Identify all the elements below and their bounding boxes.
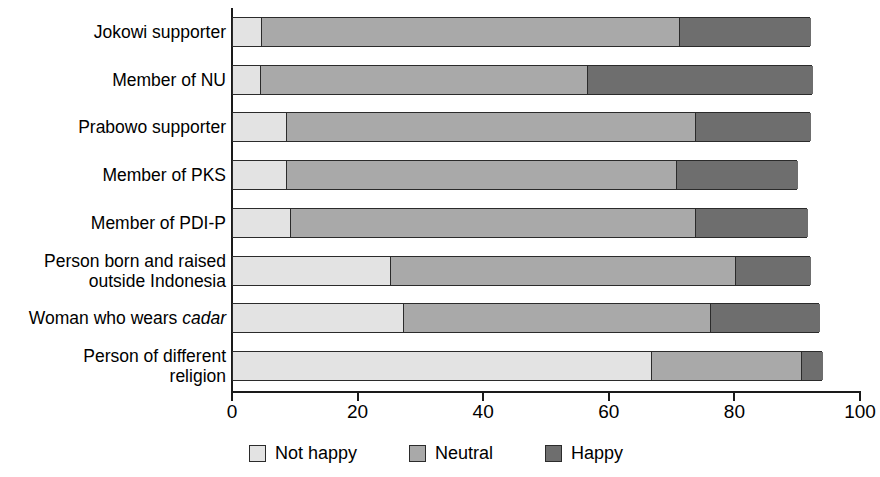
x-axis-tick-100: [859, 393, 861, 401]
x-axis-tick-40: [482, 393, 484, 401]
neutral-swatch-icon: [409, 445, 426, 462]
x-axis-tick-label-20: 20: [328, 401, 388, 423]
x-axis-tick-20: [357, 393, 359, 401]
bar-segment-neutral[interactable]: [651, 352, 802, 380]
category-label-2: Prabowo supporter: [0, 117, 226, 137]
category-label-7: Person of differentreligion: [0, 346, 226, 386]
legend-item-not-happy[interactable]: Not happy: [249, 443, 357, 463]
bar-segment-neutral[interactable]: [286, 161, 675, 189]
x-axis-tick-label-80: 80: [704, 401, 764, 423]
category-label-line: Jokowi supporter: [0, 22, 226, 42]
category-label-6: Woman who wears cadar: [0, 308, 226, 328]
bar-2[interactable]: [232, 112, 810, 142]
category-label-1: Member of NU: [0, 70, 226, 90]
bar-segment-happy[interactable]: [695, 209, 808, 237]
bar-segment-not-happy[interactable]: [233, 209, 290, 237]
bar-segment-neutral[interactable]: [390, 257, 735, 285]
category-label-4: Member of PDI-P: [0, 213, 226, 233]
bar-6[interactable]: [232, 303, 819, 333]
bar-segment-happy[interactable]: [679, 18, 811, 46]
bar-segment-neutral[interactable]: [403, 304, 711, 332]
x-axis-tick-label-100: 100: [830, 401, 880, 423]
bar-3[interactable]: [232, 160, 797, 190]
bar-segment-happy[interactable]: [695, 113, 811, 141]
bar-segment-neutral[interactable]: [290, 209, 695, 237]
bar-segment-happy[interactable]: [676, 161, 798, 189]
bar-segment-happy[interactable]: [710, 304, 820, 332]
happy-swatch-icon: [545, 445, 562, 462]
not-happy-swatch-icon: [249, 445, 266, 462]
chart-legend: Not happyNeutralHappy: [0, 443, 872, 463]
x-axis-tick-label-40: 40: [453, 401, 513, 423]
category-label-line: religion: [0, 366, 226, 386]
category-label-line: outside Indonesia: [0, 271, 226, 291]
bar-segment-happy[interactable]: [587, 66, 813, 94]
bar-4[interactable]: [232, 208, 807, 238]
bar-segment-neutral[interactable]: [260, 66, 587, 94]
category-label-line: Woman who wears cadar: [0, 308, 226, 328]
category-label-3: Member of PKS: [0, 165, 226, 185]
x-axis-tick-label-60: 60: [579, 401, 639, 423]
bar-5[interactable]: [232, 256, 810, 286]
category-label-line: Person of different: [0, 346, 226, 366]
bar-segment-not-happy[interactable]: [233, 304, 403, 332]
x-axis-tick-60: [608, 393, 610, 401]
bar-1[interactable]: [232, 65, 812, 95]
bar-segment-happy[interactable]: [735, 257, 810, 285]
category-axis-labels: Jokowi supporterMember of NUPrabowo supp…: [0, 8, 226, 390]
category-label-line: Prabowo supporter: [0, 117, 226, 137]
category-label-5: Person born and raisedoutside Indonesia: [0, 251, 226, 291]
bar-segment-not-happy[interactable]: [233, 161, 286, 189]
x-axis-line: [231, 391, 861, 393]
category-label-line: Member of PKS: [0, 165, 226, 185]
bar-segment-not-happy[interactable]: [233, 66, 260, 94]
legend-item-neutral[interactable]: Neutral: [409, 443, 493, 463]
bar-segment-not-happy[interactable]: [233, 18, 261, 46]
legend-label: Not happy: [275, 443, 357, 463]
legend-label: Neutral: [435, 443, 493, 463]
legend-label: Happy: [571, 443, 623, 463]
category-label-line: Member of NU: [0, 70, 226, 90]
bar-segment-happy[interactable]: [801, 352, 823, 380]
bar-segment-not-happy[interactable]: [233, 257, 390, 285]
x-axis-tick-label-0: 0: [202, 401, 262, 423]
x-axis-tick-80: [733, 393, 735, 401]
category-label-line: Person born and raised: [0, 251, 226, 271]
category-label-0: Jokowi supporter: [0, 22, 226, 42]
bar-segment-not-happy[interactable]: [233, 113, 286, 141]
bar-7[interactable]: [232, 351, 822, 381]
x-axis-tick-0: [231, 393, 233, 401]
legend-item-happy[interactable]: Happy: [545, 443, 623, 463]
category-label-line: Member of PDI-P: [0, 213, 226, 233]
bar-segment-neutral[interactable]: [261, 18, 679, 46]
plot-area: [232, 8, 860, 390]
bar-segment-not-happy[interactable]: [233, 352, 651, 380]
bar-0[interactable]: [232, 17, 810, 47]
bar-segment-neutral[interactable]: [286, 113, 694, 141]
